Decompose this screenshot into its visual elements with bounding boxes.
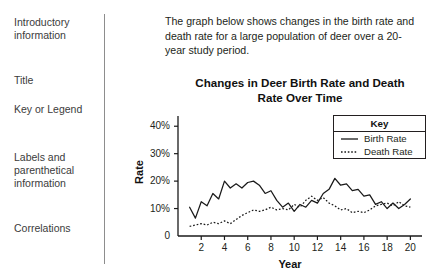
intro-paragraph: The graph below shows changes in the bir… bbox=[165, 14, 415, 58]
chart-title: Changes in Deer Birth Rate and Death Rat… bbox=[185, 76, 415, 105]
y-tick-label: 40% bbox=[136, 120, 170, 131]
x-tick-label: 4 bbox=[214, 242, 234, 253]
line-chart: 010%20%30%40% 2468101214161820 Rate Year… bbox=[130, 108, 428, 279]
chart-legend: Key Birth Rate Death Rate bbox=[333, 115, 426, 159]
x-tick-label: 6 bbox=[238, 242, 258, 253]
sidebar-item-key-or-legend: Key or Legend bbox=[14, 103, 106, 116]
legend-item-birth-rate: Birth Rate bbox=[334, 132, 425, 145]
x-tick-label: 20 bbox=[400, 242, 420, 253]
series-line-birth-rate bbox=[190, 178, 411, 218]
x-tick-label: 8 bbox=[261, 242, 281, 253]
sidebar-item-title: Title bbox=[14, 74, 106, 87]
x-axis-title: Year bbox=[230, 258, 350, 270]
x-tick-label: 14 bbox=[331, 242, 351, 253]
sidebar-item-label: Labels and parenthetical information bbox=[14, 151, 74, 189]
x-tick-label: 18 bbox=[377, 242, 397, 253]
legend-title: Key bbox=[334, 116, 425, 132]
sidebar-item-label: Introductory information bbox=[14, 16, 69, 41]
vertical-divider bbox=[104, 14, 105, 264]
sidebar-item-label: Key or Legend bbox=[14, 103, 82, 115]
series-line-death-rate bbox=[190, 196, 411, 226]
y-tick-label: 10% bbox=[136, 203, 170, 214]
legend-label-death-rate: Death Rate bbox=[364, 146, 413, 157]
sidebar-item-introductory-information: Introductory information bbox=[14, 16, 106, 42]
x-tick-label: 2 bbox=[191, 242, 211, 253]
sidebar-item-label: Correlations bbox=[14, 222, 71, 234]
sidebar-item-correlations: Correlations bbox=[14, 222, 106, 235]
legend-label-birth-rate: Birth Rate bbox=[364, 133, 407, 144]
x-tick-label: 16 bbox=[354, 242, 374, 253]
legend-item-death-rate: Death Rate bbox=[334, 145, 425, 158]
solid-line-icon bbox=[340, 135, 359, 143]
worksheet-page: Introductory information Title Key or Le… bbox=[0, 0, 428, 279]
sidebar-item-labels-and-parenthetical-information: Labels and parenthetical information bbox=[14, 151, 106, 190]
sidebar: Introductory information Title Key or Le… bbox=[0, 0, 104, 279]
dotted-line-icon bbox=[340, 148, 359, 156]
x-tick-label: 10 bbox=[284, 242, 304, 253]
x-tick-label: 12 bbox=[307, 242, 327, 253]
y-axis-title: Rate bbox=[133, 149, 145, 195]
y-tick-label: 0 bbox=[136, 230, 170, 241]
sidebar-item-label: Title bbox=[14, 74, 33, 86]
